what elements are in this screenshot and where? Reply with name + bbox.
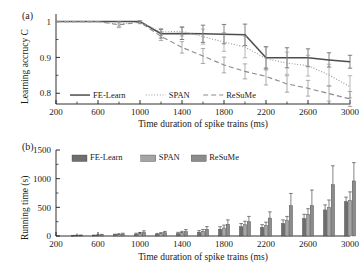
- panel-b-bar-span: [348, 192, 352, 236]
- panel-b-bar-fe-learn: [281, 220, 285, 236]
- panel-a-x-tick-label: 1400: [173, 107, 192, 117]
- panel-b-bar-resume: [268, 212, 272, 236]
- panel-b-bar-fe-learn: [344, 197, 348, 236]
- panel-b-y-tick-label: 1000: [33, 174, 52, 184]
- panel-b-bar-span: [180, 231, 184, 236]
- panel-b-bar-resume: [352, 163, 356, 236]
- panel-b-bar-span: [117, 234, 121, 236]
- panel-a-learning-accuracy: (a) Learning accrucy C 0.80.912006001000…: [0, 0, 364, 136]
- panel-b-bar-span: [243, 221, 247, 236]
- panel-b-x-tick-label: 2600: [299, 239, 318, 249]
- panel-a-plot: 0.80.91200600100014001800220026003000FE-…: [0, 0, 364, 136]
- panel-b-bar-fe-learn: [155, 233, 159, 236]
- panel-b-bar-resume: [163, 231, 167, 236]
- panel-b-bar-fe-learn: [134, 233, 138, 236]
- panel-a-x-tick-label: 1800: [215, 107, 234, 117]
- panel-b-bar-resume: [226, 220, 230, 236]
- panel-a-x-tick-label: 2600: [299, 107, 318, 117]
- panel-a-legend: FE-LearnSPANReSuMe: [70, 90, 256, 100]
- panel-b-bar-resume: [310, 190, 314, 236]
- panel-b-bar-span: [96, 235, 100, 236]
- panel-b-bar-span: [222, 225, 226, 236]
- panel-b-x-tick-label: 1800: [215, 239, 234, 249]
- panel-b-bar-fe-learn: [239, 224, 243, 236]
- panel-a-y-tick-label: 1: [47, 17, 52, 27]
- panel-b-legend-label-span: SPAN: [159, 152, 180, 162]
- panel-b-bar-fe-learn: [218, 227, 222, 236]
- panel-b-legend-swatch-resume: [191, 155, 206, 162]
- panel-b-bar-span: [201, 229, 205, 236]
- panel-a-legend-label-span: SPAN: [169, 90, 190, 100]
- panel-b-running-time: (b) Running time (s) 0500100015002006001…: [0, 136, 364, 274]
- panel-b-bar-span: [75, 235, 79, 236]
- panel-a-x-tick-label: 3000: [341, 107, 360, 117]
- panel-b-bar-fe-learn: [323, 205, 327, 236]
- panel-b-bar-span: [327, 200, 331, 236]
- panel-b-bar-resume: [331, 166, 335, 236]
- panel-b-bar-resume: [79, 235, 83, 236]
- panel-b-plot: 0500100015002006001000140018002200260030…: [0, 136, 364, 274]
- panel-b-bar-fe-learn: [92, 235, 96, 236]
- panel-b-legend-swatch-span: [141, 155, 156, 162]
- panel-b-bar-resume: [100, 234, 104, 236]
- panel-a-legend-label-fe-learn: FE-Learn: [93, 90, 126, 100]
- panel-b-bar-resume: [289, 193, 293, 236]
- panel-b-legend-swatch-fe-learn: [72, 155, 87, 162]
- panel-b-bar-resume: [205, 227, 209, 236]
- panel-b-bar-resume: [121, 233, 125, 236]
- panel-b-x-axis-label: Time duration of spike trains (ms): [138, 252, 268, 263]
- panel-b-x-tick-label: 1000: [131, 239, 150, 249]
- panel-b-legend: FE-LearnSPANReSuMe: [72, 152, 239, 162]
- panel-b-bar-fe-learn: [302, 214, 306, 236]
- panel-b-bar-fe-learn: [176, 232, 180, 236]
- panel-b-bar-span: [159, 233, 163, 236]
- panel-a-x-tick-label: 2200: [257, 107, 276, 117]
- panel-b-x-tick-label: 2200: [257, 239, 276, 249]
- panel-b-bar-resume: [247, 216, 251, 236]
- panel-b-bar-span: [138, 232, 142, 236]
- panel-b-x-tick-label: 3000: [341, 239, 360, 249]
- panel-b-x-tick-label: 1400: [173, 239, 192, 249]
- panel-b-x-tick-label: 600: [91, 239, 105, 249]
- panel-a-y-tick-label: 0.9: [40, 53, 52, 63]
- panel-b-bar-span: [306, 209, 310, 236]
- panel-a-x-tick-label: 600: [91, 107, 105, 117]
- panel-a-x-tick-label: 1000: [131, 107, 150, 117]
- panel-a-y-tick-label: 0.8: [40, 88, 52, 98]
- figure-container: (a) Learning accrucy C 0.80.912006001000…: [0, 0, 364, 274]
- panel-b-bar-fe-learn: [197, 231, 201, 236]
- panel-b-bar-fe-learn: [113, 234, 117, 236]
- panel-b-bar-resume: [142, 231, 146, 236]
- panel-a-x-axis-label: Time duration of spike trains (ms): [138, 119, 268, 130]
- panel-b-legend-label-resume: ReSuMe: [209, 152, 239, 162]
- panel-b-bar-fe-learn: [260, 225, 264, 236]
- panel-b-y-tick-label: 1500: [33, 145, 52, 155]
- panel-b-bar-resume: [184, 230, 188, 236]
- panel-a-legend-label-resume: ReSuMe: [226, 90, 256, 100]
- panel-a-x-tick-label: 200: [49, 107, 63, 117]
- panel-b-bar-span: [285, 216, 289, 236]
- panel-b-y-tick-label: 500: [38, 203, 52, 213]
- panel-b-legend-label-fe-learn: FE-Learn: [90, 152, 123, 162]
- panel-b-bar-span: [264, 222, 268, 236]
- panel-b-x-tick-label: 200: [49, 239, 63, 249]
- panel-b-bar-fe-learn: [71, 235, 75, 236]
